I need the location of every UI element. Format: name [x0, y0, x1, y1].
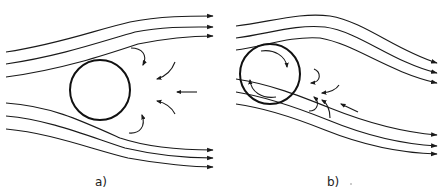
eddy-arrow-upper-curl	[131, 48, 145, 65]
eddy-arrow-upper-curl	[311, 69, 319, 83]
panel-label-b: b)	[327, 175, 339, 189]
eddy-arrow-lower-return	[157, 101, 175, 114]
eddy-arrow-diagonal-return	[341, 104, 358, 112]
flow-diagram	[0, 0, 441, 196]
streamline-lower-3	[6, 129, 213, 167]
streamline-lower-2	[6, 116, 213, 158]
cylinder-b	[240, 44, 300, 104]
eddy-arrow-lower-curl	[309, 97, 317, 111]
panel-label-a: a)	[95, 175, 107, 189]
eddy-arrow-upper-return	[157, 62, 175, 79]
streamline-upper-3	[6, 36, 213, 77]
eddy-arrow-lower-return	[322, 100, 330, 118]
cylinder-a	[70, 60, 130, 120]
rotation-arrow-top-icon	[261, 51, 287, 67]
streamline-upper-2	[236, 26, 437, 73]
eddy-arrow-upper-return	[322, 85, 339, 93]
streamline-upper-1	[6, 16, 213, 52]
streamline-lower-2	[236, 92, 437, 146]
eddy-arrow-lower-curl	[129, 115, 143, 133]
streamline-upper-1	[236, 15, 437, 63]
panel-b	[236, 15, 437, 154]
scan-speck	[350, 183, 352, 185]
panel-a	[6, 16, 213, 167]
streamline-lower-3	[236, 104, 437, 154]
streamline-upper-2	[6, 27, 213, 64]
